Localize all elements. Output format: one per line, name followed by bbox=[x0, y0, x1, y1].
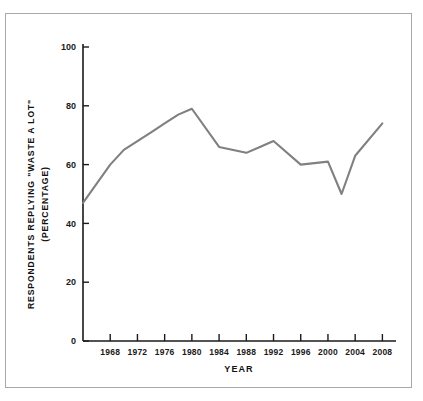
x-axis-title: YEAR bbox=[224, 364, 253, 374]
y-tick-label: 80 bbox=[66, 101, 76, 111]
x-tick-label: 1976 bbox=[155, 347, 175, 357]
y-tick-label: 20 bbox=[66, 277, 76, 287]
y-tick-label: 100 bbox=[61, 42, 76, 52]
x-tick-label: 1988 bbox=[236, 347, 256, 357]
chart-figure: 020406080100 196819721976198019841988199… bbox=[0, 0, 423, 401]
line-chart-plot: 020406080100 196819721976198019841988199… bbox=[6, 14, 411, 387]
x-tick-label: 2004 bbox=[345, 347, 365, 357]
x-tick-label: 1968 bbox=[100, 347, 120, 357]
x-tick-label: 1996 bbox=[291, 347, 311, 357]
x-tick-label: 2000 bbox=[318, 347, 338, 357]
figure-border: 020406080100 196819721976198019841988199… bbox=[5, 13, 412, 388]
x-tick-label: 2008 bbox=[373, 347, 393, 357]
y-axis-title-line1: RESPONDENTS REPLYING "WASTE A LOT" bbox=[26, 99, 36, 309]
y-tick-label: 40 bbox=[66, 219, 76, 229]
y-axis-title-line2: (PERCENTAGE) bbox=[40, 166, 50, 242]
x-tick-label: 1972 bbox=[128, 347, 148, 357]
x-axis-ticks bbox=[110, 334, 382, 341]
x-tick-label: 1984 bbox=[209, 347, 229, 357]
data-series-line bbox=[83, 109, 382, 203]
x-tick-label: 1992 bbox=[264, 347, 284, 357]
y-axis-tick-labels: 020406080100 bbox=[61, 42, 76, 346]
x-axis-tick-labels: 1968197219761980198419881992199620002004… bbox=[100, 347, 392, 357]
y-tick-label: 0 bbox=[71, 336, 76, 346]
y-tick-label: 60 bbox=[66, 160, 76, 170]
x-tick-label: 1980 bbox=[182, 347, 202, 357]
